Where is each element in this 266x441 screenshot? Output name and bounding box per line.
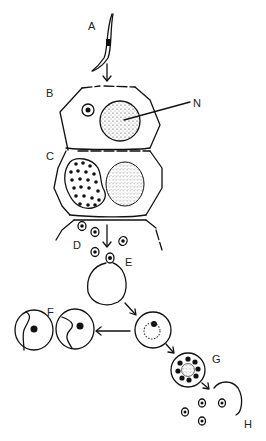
stage-e-rbc-invasion	[88, 253, 126, 305]
label-g: G	[212, 353, 221, 365]
label-c: C	[46, 150, 54, 162]
cell-b	[60, 86, 190, 150]
stage-d-merozoites	[78, 222, 129, 257]
arrow-g-to-h	[202, 383, 209, 389]
stage-f-gametocytes	[15, 309, 94, 350]
life-cycle-diagram: A B N C	[0, 0, 266, 441]
merozoite-dots	[69, 161, 101, 207]
label-f: F	[47, 306, 54, 318]
ring-stage-rbc	[135, 312, 171, 348]
label-n: N	[193, 97, 201, 109]
label-a: A	[88, 20, 96, 32]
arrow-d-down	[103, 225, 111, 247]
arrow-ring-to-f	[96, 327, 130, 335]
arrow-a-to-b	[103, 64, 111, 81]
arrow-ring-to-g	[166, 344, 174, 353]
arrow-e-to-ring	[125, 303, 136, 315]
stage-h-released-merozoites	[182, 382, 242, 425]
label-d: D	[73, 239, 81, 251]
cell-c	[54, 151, 162, 215]
label-h: H	[244, 418, 252, 430]
label-e: E	[125, 256, 132, 268]
stage-g-rbc-schizont	[171, 353, 205, 387]
label-b: B	[46, 87, 53, 99]
